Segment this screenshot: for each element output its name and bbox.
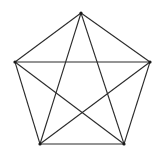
vertex-right (148, 60, 151, 63)
edge-right-bottom-left (40, 62, 150, 144)
edge-top-bottom-right (81, 13, 124, 144)
edge-top-right (81, 13, 150, 62)
edge-right-bottom-right (124, 62, 150, 144)
vertex-top (79, 11, 82, 14)
vertex-bottom-left (38, 142, 41, 145)
complete-graph-k5-diagram (0, 0, 165, 153)
vertex-left (13, 60, 16, 63)
vertex-bottom-right (122, 142, 125, 145)
graph-edges (15, 13, 150, 144)
edge-left-top (15, 13, 81, 62)
edge-top-bottom-left (40, 13, 81, 144)
edge-bottom-right-left (15, 62, 124, 144)
edge-bottom-left-left (15, 62, 40, 144)
